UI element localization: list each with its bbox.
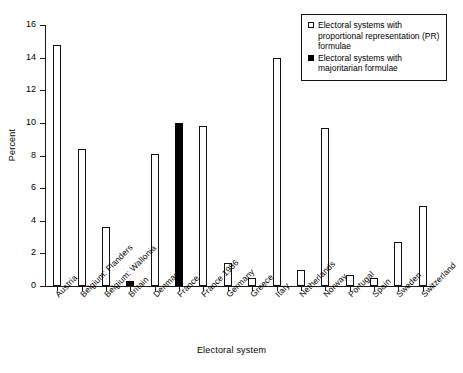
y-axis-tick-label: 10 (26, 117, 36, 127)
bar (394, 242, 402, 286)
legend-swatch-pr-icon (308, 22, 314, 28)
y-axis-tick-label: 8 (31, 150, 36, 160)
bar (78, 149, 86, 286)
x-axis-label: Electoral system (0, 345, 463, 355)
legend-item-pr: Electoral systems with proportional repr… (308, 20, 440, 52)
y-axis-tick-label: 4 (31, 215, 36, 225)
chart-figure: Percent 0246810121416 AustriaBelgium: Fl… (0, 0, 463, 373)
bar (175, 123, 183, 286)
y-axis-tick: 2 (40, 253, 45, 254)
y-axis-tick: 0 (40, 286, 45, 287)
y-axis-label: Percent (7, 115, 17, 175)
y-axis-tick-label: 14 (26, 52, 36, 62)
y-axis-tick: 10 (40, 123, 45, 124)
bar (53, 45, 61, 286)
y-axis-tick-label: 12 (26, 84, 36, 94)
legend-item-majoritarian: Electoral systems with majoritarian form… (308, 53, 440, 74)
legend-swatch-majoritarian-icon (308, 55, 314, 61)
legend-label-majoritarian: Electoral systems with majoritarian form… (318, 53, 440, 74)
y-axis-tick-label: 16 (26, 19, 36, 29)
y-axis-tick: 6 (40, 188, 45, 189)
y-axis-tick-label: 6 (31, 182, 36, 192)
y-axis-tick: 16 (40, 25, 45, 26)
y-axis-tick: 4 (40, 221, 45, 222)
y-axis-tick: 8 (40, 156, 45, 157)
y-axis-tick-label: 0 (31, 280, 36, 290)
bar (151, 154, 159, 286)
chart-legend: Electoral systems with proportional repr… (301, 14, 447, 81)
y-axis-line (45, 25, 46, 287)
y-axis-tick: 12 (40, 90, 45, 91)
y-axis-tick-label: 2 (31, 247, 36, 257)
legend-label-pr: Electoral systems with proportional repr… (318, 20, 440, 52)
bar (199, 126, 207, 286)
bar (273, 58, 281, 286)
y-axis-tick: 14 (40, 58, 45, 59)
